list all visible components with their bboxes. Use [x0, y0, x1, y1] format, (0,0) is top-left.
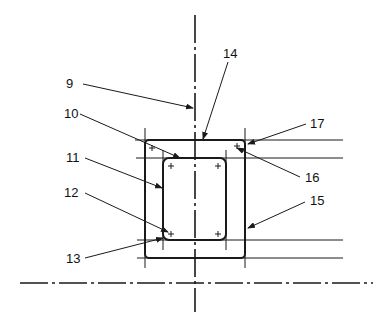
label-16: 16	[305, 170, 319, 185]
label-11: 11	[66, 150, 80, 165]
leader-17	[248, 124, 306, 144]
label-14: 14	[223, 46, 237, 61]
label-10: 10	[64, 106, 78, 121]
leader-10	[80, 114, 180, 158]
label-17: 17	[310, 116, 324, 131]
leader-15	[248, 202, 305, 228]
label-15: 15	[310, 193, 324, 208]
cross-inner-bottom-right	[215, 231, 221, 237]
leader-16	[237, 148, 300, 177]
label-9: 9	[66, 76, 73, 91]
cross-inner-bottom-left	[168, 231, 174, 237]
label-12: 12	[64, 185, 78, 200]
leader-12	[85, 193, 168, 232]
cross-inner-top-left	[168, 163, 174, 169]
leader-9	[83, 84, 193, 108]
leader-11	[85, 158, 162, 188]
leader-14	[203, 62, 228, 139]
label-13: 13	[66, 251, 80, 266]
leader-13	[85, 238, 163, 258]
cross-inner-top-right	[215, 163, 221, 169]
technical-drawing: 9 10 11 12 13 14 15 16 17	[0, 0, 385, 330]
